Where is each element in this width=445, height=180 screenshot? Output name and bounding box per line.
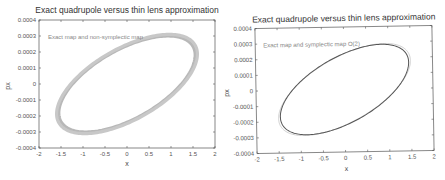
x-axis-title: x <box>345 165 349 172</box>
x-tick-label: -2 <box>254 156 260 162</box>
y-tick-label: -0.0001 <box>233 104 254 110</box>
chart-title: Exact quadrupole versus thin lens approx… <box>252 11 436 24</box>
x-tick-label: -0.5 <box>318 155 329 161</box>
x-axis-title: x <box>125 160 129 167</box>
y-tick-label: 0.0003 <box>18 33 37 39</box>
x-tick-label: -1 <box>80 151 86 157</box>
x-tick-label: -1.5 <box>274 156 285 162</box>
x-tick-label: 2 <box>213 151 217 157</box>
y-tick-label: 0.0001 <box>18 65 37 71</box>
series-exact-map <box>59 36 195 132</box>
series-exact-map <box>277 43 411 136</box>
y-tick-label: -0.0002 <box>16 113 37 119</box>
y-tick-label: -0.0004 <box>234 151 255 157</box>
annotation: Exact map and non-symplectic map <box>48 34 144 40</box>
figure: Exact quadrupole versus thin lens approx… <box>0 0 445 180</box>
x-tick-label: 2 <box>432 153 436 159</box>
x-tick-label: 1 <box>169 151 173 157</box>
series-non-symplectic-map <box>57 34 198 133</box>
y-tick-label: -0.0001 <box>16 97 37 103</box>
series-symplectic-map-o-2- <box>279 44 410 135</box>
chart-non-symplectic: Exact quadrupole versus thin lens approx… <box>4 5 219 167</box>
x-tick-label: -1 <box>299 156 305 162</box>
chart-title: Exact quadrupole versus thin lens approx… <box>35 5 219 15</box>
x-tick-label: -0.5 <box>100 151 111 157</box>
y-tick-label: -0.0004 <box>16 145 37 151</box>
y-tick-label: 0.0003 <box>234 41 253 47</box>
x-tick-label: 0.5 <box>145 151 154 157</box>
y-tick-label: -0.0002 <box>233 119 254 125</box>
y-tick-label: 0 <box>33 81 37 87</box>
y-tick-label: 0 <box>250 88 254 94</box>
x-tick-label: 0 <box>125 151 129 157</box>
y-tick-label: 0.0002 <box>18 49 37 55</box>
y-tick-label: -0.0003 <box>233 135 254 141</box>
chart-symplectic: Exact quadrupole versus thin lens approx… <box>222 11 439 174</box>
y-tick-label: -0.0003 <box>16 129 37 135</box>
x-tick-label: 0 <box>344 155 348 161</box>
x-tick-label: 1.5 <box>408 154 417 160</box>
y-tick-label: 0.0002 <box>234 57 253 63</box>
x-tick-label: -2 <box>36 151 42 157</box>
x-tick-label: -1.5 <box>56 151 67 157</box>
y-tick-label: 0.0004 <box>234 26 253 32</box>
x-tick-label: 0.5 <box>364 155 373 161</box>
y-tick-label: 0.0001 <box>234 72 253 78</box>
y-tick-label: 0.0004 <box>18 17 37 23</box>
x-tick-label: 1.5 <box>189 151 198 157</box>
y-axis-title: px <box>4 82 12 90</box>
annotation: Exact map and symplectic map O(2) <box>263 41 360 49</box>
y-axis-title: px <box>223 89 231 97</box>
x-tick-label: 1 <box>388 154 392 160</box>
